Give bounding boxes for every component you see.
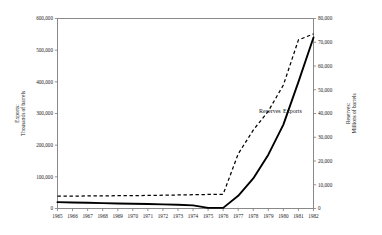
left-axis-tick-label: 0 [50,205,53,211]
x-axis-tick-label: 1978 [248,213,259,219]
x-axis-tick-label: 1977 [233,213,244,219]
right-axis-tick-label: 60,000 [318,63,333,69]
left-axis-tick-label: 100,000 [36,174,53,180]
x-axis-tick-label: 1970 [128,213,139,219]
right-axis-tick-label: 70,000 [318,39,333,45]
x-axis-tick-label: 1973 [173,213,184,219]
left-axis-tick-label: 200,000 [36,142,53,148]
left-axis-tick-label: 300,000 [36,110,53,116]
right-axis-title: Reserves:Millions of barrels [345,93,357,133]
x-axis-tick-label: 1966 [67,213,78,219]
left-axis-title: Exports:Thousands of barrels [14,91,26,136]
series-line-reserves [58,34,314,196]
series-annotation-exports: Exports [283,108,302,114]
line-chart: 0100,000200,000300,000400,000500,000600,… [0,0,382,235]
x-axis-tick-label: 1967 [82,213,93,219]
x-axis-tick-label: 1972 [158,213,169,219]
x-axis-tick-label: 1974 [188,213,199,219]
x-axis-tick-label: 1980 [278,213,289,219]
right-axis-tick-label: 40,000 [318,110,333,116]
x-axis-tick-label: 1982 [308,213,319,219]
x-axis-tick-label: 1979 [263,213,274,219]
right-axis-tick-label: 20,000 [318,158,333,164]
right-axis-tick-label: 50,000 [318,87,333,93]
x-axis-tick-label: 1971 [143,213,154,219]
left-axis-tick-label: 400,000 [36,79,53,85]
left-axis-tick-label: 500,000 [36,47,53,53]
right-axis-tick-label: 30,000 [318,134,333,140]
x-axis-tick-label: 1976 [218,213,229,219]
x-axis-tick-label: 1965 [52,213,63,219]
right-axis-tick-label: 0 [318,205,321,211]
series-annotation-reserves: Reserves [259,108,281,114]
right-axis-tick-label: 10,000 [318,182,333,188]
x-axis-tick-label: 1975 [203,213,214,219]
x-axis-tick-label: 1968 [97,213,108,219]
x-axis-tick-label: 1969 [113,213,124,219]
svg-text:Thousands of barrels: Thousands of barrels [20,91,26,136]
left-axis-tick-label: 600,000 [36,15,53,21]
right-axis-tick-label: 80,000 [318,15,333,21]
x-axis-tick-label: 1981 [293,213,304,219]
series-line-exports [58,38,314,208]
chart-container: 0100,000200,000300,000400,000500,000600,… [0,0,382,235]
svg-text:Millions of barrels: Millions of barrels [351,93,357,133]
